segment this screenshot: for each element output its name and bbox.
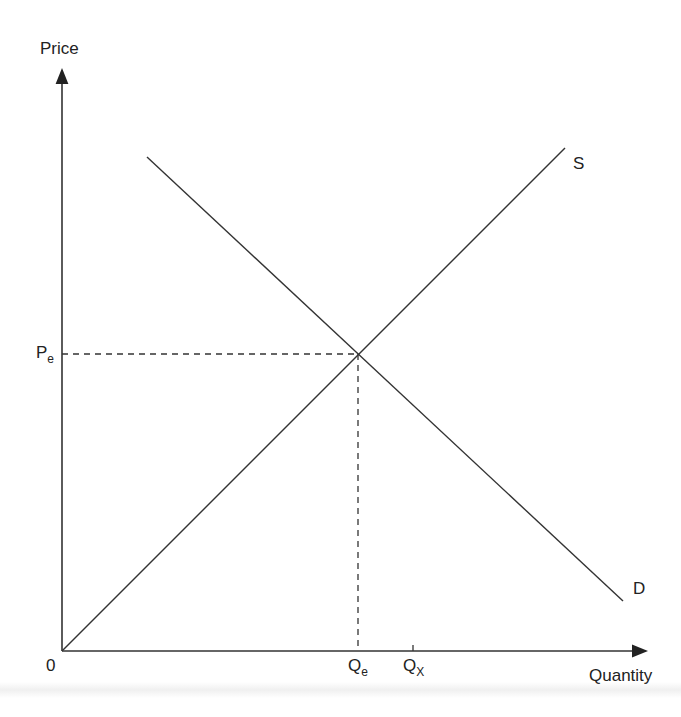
supply-curve	[62, 148, 565, 651]
demand-label: D	[633, 580, 645, 597]
qe-label: Qe	[348, 657, 368, 674]
y-axis-label: Price	[40, 40, 79, 57]
page-bleed-through	[0, 682, 681, 698]
supply-demand-diagram	[0, 0, 681, 717]
qx-label: QX	[403, 657, 424, 674]
supply-label: S	[573, 155, 584, 172]
demand-curve	[147, 157, 623, 601]
pe-label: Pe	[36, 344, 54, 361]
origin-label: 0	[46, 657, 55, 674]
